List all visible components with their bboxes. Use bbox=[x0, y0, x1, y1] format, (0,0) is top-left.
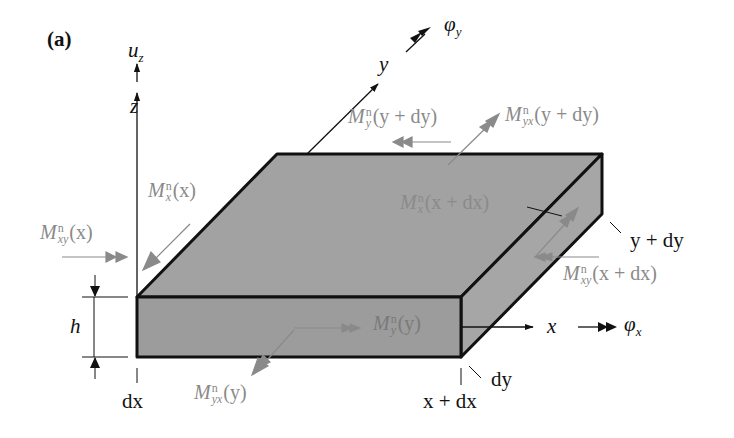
panel-label: (a) bbox=[47, 29, 72, 50]
moment-mx-xdx-label: Mnx(x + dx) bbox=[400, 192, 489, 216]
y-axis bbox=[307, 27, 431, 154]
h-label: h bbox=[70, 316, 81, 337]
z-label: z bbox=[130, 96, 138, 117]
x-plus-dx-label: x + dx bbox=[423, 391, 477, 412]
phi-x-label: φx bbox=[624, 314, 641, 338]
dy-label: dy bbox=[491, 369, 512, 390]
uz-label: uz bbox=[128, 40, 144, 64]
moment-myx-ydy-label: Mnyx(y + dy) bbox=[505, 104, 599, 128]
y-label: y bbox=[379, 54, 388, 75]
y-plus-dy-tick bbox=[610, 222, 621, 233]
moment-mxy-x-label: Mnxy(x) bbox=[40, 222, 93, 246]
moment-mx-x-label: Mnx(x) bbox=[148, 180, 196, 204]
phi-y-label: φy bbox=[444, 14, 461, 38]
dx-label: dx bbox=[122, 391, 143, 412]
moment-my-ydy-label: Mny(y + dy) bbox=[348, 106, 437, 130]
dy-tick bbox=[469, 366, 481, 378]
y-plus-dy-label: y + dy bbox=[630, 230, 684, 251]
moment-myx-y-label: Mnyx(y) bbox=[194, 382, 247, 406]
h-dimension bbox=[82, 275, 128, 379]
plate-diagram bbox=[0, 0, 734, 438]
x-label: x bbox=[547, 316, 556, 337]
moment-mxy-xdx-label: Mnxy(x + dx) bbox=[563, 263, 657, 287]
moment-my-y-label: Mny(y) bbox=[373, 313, 421, 337]
